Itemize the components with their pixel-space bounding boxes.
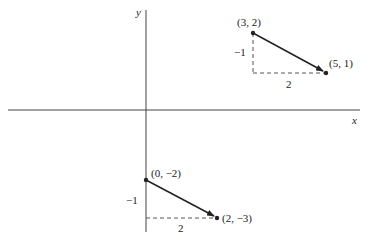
- start-point: [144, 178, 148, 182]
- start-label: (0, −2): [151, 167, 181, 180]
- vector-upper: (3, 2) (5, 1) −1 2: [234, 16, 353, 90]
- vector-lower: (0, −2) (2, −3) −1 2: [126, 167, 252, 234]
- start-label: (3, 2): [237, 16, 261, 29]
- end-point: [324, 71, 328, 75]
- end-point: [215, 216, 219, 220]
- end-label: (5, 1): [329, 57, 353, 70]
- vector-arrow: [253, 33, 323, 71]
- run-label: 2: [178, 222, 184, 234]
- run-label: 2: [286, 78, 292, 90]
- vector-arrow: [146, 180, 214, 216]
- x-axis-label: x: [351, 114, 357, 126]
- y-axis-label: y: [135, 6, 141, 18]
- rise-label: −1: [126, 194, 138, 206]
- rise-label: −1: [234, 46, 246, 58]
- end-label: (2, −3): [222, 212, 252, 225]
- coordinate-diagram: x y (3, 2) (5, 1) −1 2 (0, −2) (2, −3) −…: [0, 0, 367, 242]
- start-point: [251, 31, 255, 35]
